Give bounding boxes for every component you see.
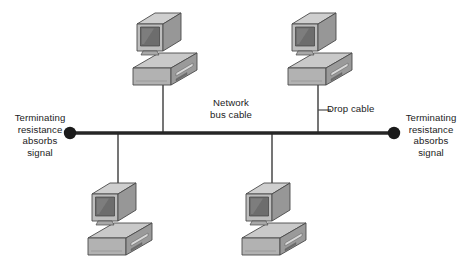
- bus-cable-line-1: Network: [191, 97, 271, 109]
- left-terminator-line-3: absorbs: [2, 135, 78, 147]
- workstation-bottom-right: [242, 183, 306, 255]
- right-terminator-line-1: Terminating: [396, 112, 466, 124]
- drop-cable-label: Drop cable: [327, 103, 397, 115]
- workstation-bottom-left: [88, 183, 152, 255]
- left-terminator-line-1: Terminating: [2, 112, 78, 124]
- drop-cable-group: [118, 76, 318, 198]
- workstation-top-left: [133, 13, 197, 85]
- bus-cable-line-2: bus cable: [191, 109, 271, 121]
- right-terminator-label: Terminating resistance absorbs signal: [396, 112, 466, 158]
- left-terminator-line-2: resistance: [2, 124, 78, 136]
- bus-cable-label: Network bus cable: [191, 97, 271, 120]
- right-terminator-line-3: absorbs: [396, 135, 466, 147]
- bus-topology-diagram: Terminating resistance absorbs signal Te…: [0, 0, 466, 271]
- right-terminator-line-2: resistance: [396, 124, 466, 136]
- left-terminator-label: Terminating resistance absorbs signal: [2, 112, 78, 158]
- right-terminator-line-4: signal: [396, 147, 466, 159]
- network-bus-cable: [64, 127, 400, 139]
- workstation-top-right: [288, 13, 352, 85]
- drop-cable-line-1: Drop cable: [327, 103, 397, 115]
- left-terminator-line-4: signal: [2, 147, 78, 159]
